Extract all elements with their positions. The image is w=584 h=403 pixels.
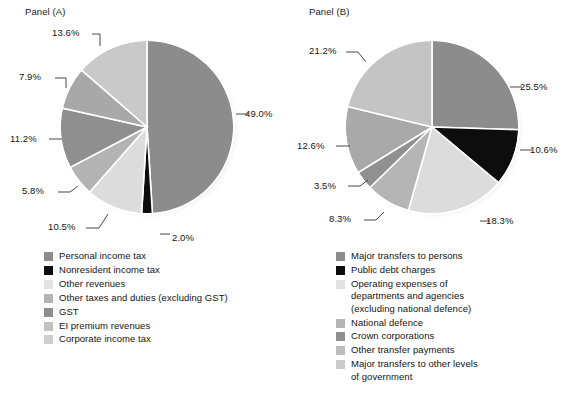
pie-slice (147, 40, 234, 214)
legend-label: Crown corporations (351, 330, 434, 342)
legend-swatch-icon (336, 266, 345, 275)
legend-label: Major transfers to persons (351, 250, 463, 262)
legend-item[interactable]: Corporate income tax (44, 333, 228, 345)
panel-b-pie-chart: 21.2%12.6%3.5%8.3%18.3%10.6%25.5% (292, 0, 584, 235)
pie-a-slice-group (60, 40, 234, 214)
pie-percent-label: 11.2% (10, 133, 37, 144)
pie-percent-label: 5.8% (22, 185, 44, 196)
pie-percent-label: 2.0% (172, 232, 194, 243)
legend-swatch-icon (336, 252, 345, 261)
legend-item[interactable]: Major transfers to persons (336, 250, 478, 262)
pie-percent-label: 18.3% (486, 215, 513, 226)
legend-swatch-icon (336, 346, 345, 355)
legend-item[interactable]: Operating expenses of departments and ag… (336, 278, 478, 315)
pie-percent-label: 7.9% (19, 71, 41, 82)
legend-label: National defence (351, 317, 423, 329)
legend-swatch-icon (336, 360, 345, 369)
panel-a-pie-chart: 13.6%7.9%11.2%5.8%10.5%2.0%49.0% (0, 0, 292, 235)
pie-slice (432, 40, 519, 130)
legend-label: Corporate income tax (59, 333, 151, 345)
legend-swatch-icon (44, 280, 53, 289)
pie-percent-label: 13.6% (52, 27, 79, 38)
legend-swatch-icon (44, 252, 53, 261)
legend-item[interactable]: National defence (336, 317, 478, 329)
leader-line (346, 52, 366, 62)
pie-b-slice-group (345, 40, 519, 214)
legend-label: Other revenues (59, 278, 125, 290)
pie-percent-label: 10.6% (530, 144, 557, 155)
legend-swatch-icon (336, 332, 345, 341)
legend-item[interactable]: EI premium revenues (44, 320, 228, 332)
legend-item[interactable]: Other transfer payments (336, 344, 478, 356)
legend-swatch-icon (336, 319, 345, 328)
pie-percent-label: 3.5% (314, 180, 336, 191)
legend-item[interactable]: Other revenues (44, 278, 228, 290)
leader-line (58, 186, 78, 192)
legend-label: GST (59, 306, 79, 318)
legend-swatch-icon (336, 280, 345, 289)
pie-percent-label: 49.0% (245, 108, 272, 119)
legend-swatch-icon (44, 335, 53, 344)
legend-label: Nonresident income tax (59, 264, 160, 276)
legend-label: Public debt charges (351, 264, 435, 276)
panel-a: Panel (A) 13.6%7.9%11.2%5.8%10.5%2.0%49.… (0, 0, 292, 403)
pie-percent-label: 12.6% (297, 140, 324, 151)
legend-item[interactable]: Major transfers to other levels of gover… (336, 358, 478, 383)
panel-b-pie-svg (292, 0, 584, 235)
legend-swatch-icon (44, 266, 53, 275)
pie-percent-label: 10.5% (48, 221, 75, 232)
leader-line (55, 78, 66, 88)
pie-percent-label: 8.3% (329, 213, 351, 224)
legend-item[interactable]: Public debt charges (336, 264, 478, 276)
legend-label: Operating expenses of departments and ag… (351, 278, 471, 315)
legend-swatch-icon (44, 294, 53, 303)
legend-swatch-icon (44, 322, 53, 331)
legend-label: Personal income tax (59, 250, 146, 262)
legend-item[interactable]: Other taxes and duties (excluding GST) (44, 292, 228, 304)
leader-line (364, 212, 384, 220)
legend-label: EI premium revenues (59, 320, 150, 332)
legend-swatch-icon (44, 308, 53, 317)
legend-label: Other transfer payments (351, 344, 455, 356)
legend-item[interactable]: Personal income tax (44, 250, 228, 262)
legend-label: Other taxes and duties (excluding GST) (59, 292, 228, 304)
panel-a-legend: Personal income taxNonresident income ta… (44, 250, 228, 347)
legend-label: Major transfers to other levels of gover… (351, 358, 478, 383)
panel-b: Panel (B) 21.2%12.6%3.5%8.3%18.3%10.6%25… (292, 0, 584, 403)
panel-b-legend: Major transfers to personsPublic debt ch… (336, 250, 478, 385)
leader-line (92, 34, 100, 46)
leader-line (86, 214, 108, 228)
legend-item[interactable]: Nonresident income tax (44, 264, 228, 276)
pie-percent-label: 25.5% (520, 81, 547, 92)
legend-item[interactable]: Crown corporations (336, 330, 478, 342)
legend-item[interactable]: GST (44, 306, 228, 318)
pie-percent-label: 21.2% (309, 45, 336, 56)
